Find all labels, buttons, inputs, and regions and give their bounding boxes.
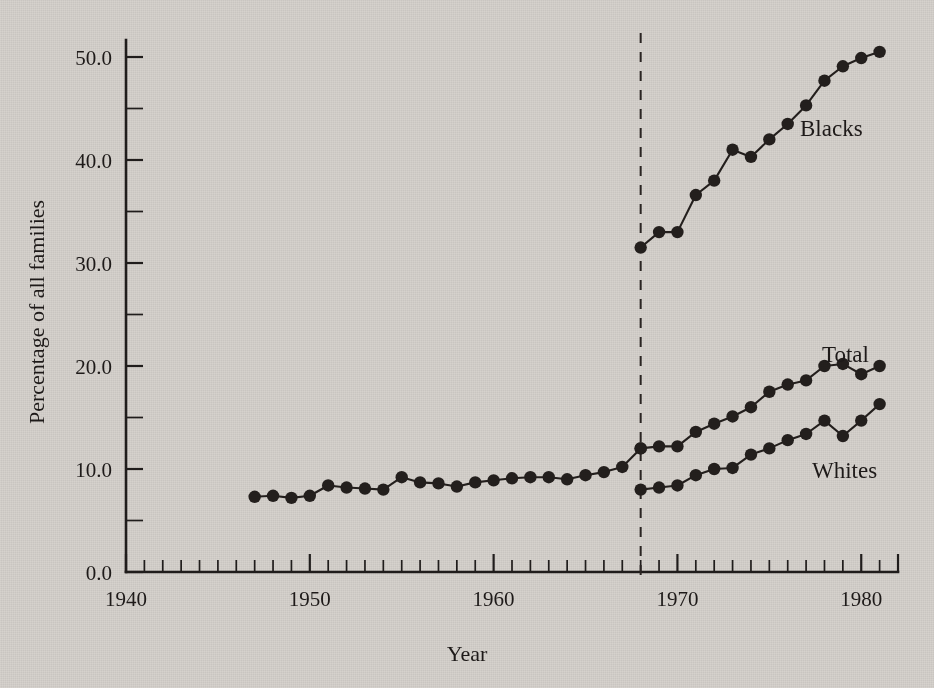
series-line <box>641 52 880 248</box>
data-point <box>800 428 812 440</box>
data-point <box>837 60 849 72</box>
data-point <box>818 414 830 426</box>
data-point <box>708 463 720 475</box>
x-tick-label: 1980 <box>840 587 882 611</box>
data-point <box>855 368 867 380</box>
data-point <box>396 471 408 483</box>
series-label-whites: Whites <box>812 458 877 483</box>
data-point <box>873 46 885 58</box>
data-point <box>800 374 812 386</box>
data-point <box>579 469 591 481</box>
data-point <box>653 226 665 238</box>
data-point <box>469 476 481 488</box>
y-tick-label: 10.0 <box>75 458 112 482</box>
data-point <box>524 471 536 483</box>
data-point <box>634 483 646 495</box>
data-point <box>432 477 444 489</box>
data-point <box>690 426 702 438</box>
data-point <box>690 189 702 201</box>
data-point <box>873 398 885 410</box>
data-point <box>745 151 757 163</box>
data-point <box>653 440 665 452</box>
y-tick-label: 50.0 <box>75 46 112 70</box>
data-point <box>782 118 794 130</box>
data-point <box>763 442 775 454</box>
data-point <box>726 410 738 422</box>
data-point <box>763 133 775 145</box>
data-point <box>377 483 389 495</box>
data-point <box>248 491 260 503</box>
data-point <box>782 434 794 446</box>
data-point <box>837 430 849 442</box>
data-point <box>634 442 646 454</box>
data-point <box>285 492 297 504</box>
data-point <box>487 474 499 486</box>
chart-page: 0.010.020.030.040.050.019401950196019701… <box>0 0 934 688</box>
data-point <box>671 479 683 491</box>
data-point <box>873 360 885 372</box>
data-point <box>690 469 702 481</box>
series-label-blacks: Blacks <box>800 116 863 141</box>
data-point <box>267 490 279 502</box>
data-point <box>543 471 555 483</box>
y-tick-label: 40.0 <box>75 149 112 173</box>
data-point <box>745 401 757 413</box>
y-tick-label: 20.0 <box>75 355 112 379</box>
data-point <box>653 481 665 493</box>
data-point <box>451 480 463 492</box>
y-tick-label: 30.0 <box>75 252 112 276</box>
data-point <box>800 99 812 111</box>
data-point <box>304 490 316 502</box>
data-point <box>708 417 720 429</box>
x-tick-label: 1940 <box>105 587 147 611</box>
data-point <box>855 52 867 64</box>
y-axis-title: Percentage of all families <box>24 200 49 424</box>
data-point <box>506 472 518 484</box>
axes <box>126 40 898 572</box>
data-point <box>782 378 794 390</box>
data-point <box>616 461 628 473</box>
y-tick-label: 0.0 <box>86 561 112 585</box>
x-tick-label: 1960 <box>473 587 515 611</box>
data-point <box>708 174 720 186</box>
data-point <box>855 414 867 426</box>
data-point <box>340 481 352 493</box>
data-point <box>561 473 573 485</box>
data-series <box>248 46 885 504</box>
data-point <box>745 448 757 460</box>
data-point <box>414 476 426 488</box>
x-tick-label: 1950 <box>289 587 331 611</box>
data-point <box>671 440 683 452</box>
series-labels: BlacksTotalWhites <box>800 116 877 483</box>
line-chart: 0.010.020.030.040.050.019401950196019701… <box>0 0 934 688</box>
data-point <box>671 226 683 238</box>
axis-tick-labels: 0.010.020.030.040.050.019401950196019701… <box>75 46 882 611</box>
axis-ticks <box>126 57 898 572</box>
data-point <box>322 479 334 491</box>
data-point <box>598 466 610 478</box>
data-point <box>726 462 738 474</box>
x-axis-title: Year <box>447 641 488 666</box>
data-point <box>634 241 646 253</box>
data-point <box>359 482 371 494</box>
data-point <box>726 144 738 156</box>
data-point <box>763 386 775 398</box>
x-tick-label: 1970 <box>656 587 698 611</box>
series-label-total: Total <box>822 342 869 367</box>
data-point <box>818 74 830 86</box>
